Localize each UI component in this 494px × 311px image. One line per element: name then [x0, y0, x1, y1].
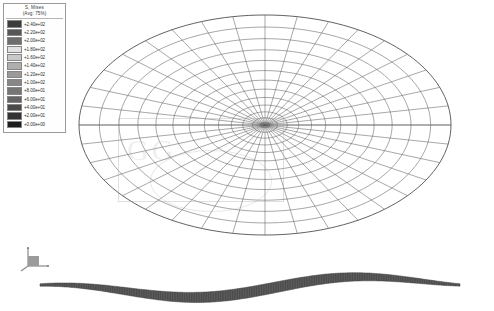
legend-level-row: +4.00e+01 — [7, 103, 63, 111]
legend-color-swatch — [7, 71, 22, 78]
legend-level-row: +0.00e+00 — [7, 120, 63, 128]
fea-contour-plot-root: GG S, Mises (Avg: 75%) +2.40e+02+2.20e+0… — [0, 0, 494, 311]
legend-header: S, Mises (Avg: 75%) — [4, 4, 65, 17]
legend-divider — [6, 18, 63, 19]
legend-color-swatch — [7, 46, 22, 53]
legend-color-swatch — [7, 20, 22, 27]
legend-level-row: +6.00e+01 — [7, 95, 63, 103]
legend-level-value: +2.00e+02 — [24, 38, 45, 43]
legend-level-row: +2.00e+01 — [7, 112, 63, 120]
legend-level-value: +6.00e+01 — [24, 97, 45, 102]
legend-level-value: +2.00e+01 — [24, 113, 45, 118]
legend-level-value: +2.20e+02 — [24, 30, 45, 35]
legend-level-value: +1.00e+02 — [24, 80, 45, 85]
legend-color-swatch — [7, 121, 22, 128]
legend-color-swatch — [7, 87, 22, 94]
legend-color-swatch — [7, 79, 22, 86]
legend-level-value: +1.40e+02 — [24, 63, 45, 68]
legend-color-swatch — [7, 37, 22, 44]
legend-color-swatch — [7, 112, 22, 119]
legend-level-row: +8.00e+01 — [7, 87, 63, 95]
axis-triad-icon — [18, 240, 58, 272]
legend-color-swatch — [7, 54, 22, 61]
legend-level-row: +1.00e+02 — [7, 78, 63, 86]
legend-level-value: +1.80e+02 — [24, 47, 45, 52]
legend-color-swatch — [7, 29, 22, 36]
legend-level-row: +1.60e+02 — [7, 53, 63, 61]
viewport[interactable]: GG — [0, 0, 494, 311]
legend-color-swatch — [7, 62, 22, 69]
legend-level-row: +2.00e+02 — [7, 37, 63, 45]
legend-level-value: +0.00e+00 — [24, 122, 45, 127]
legend-level-row: +1.80e+02 — [7, 45, 63, 53]
legend-level-row: +2.20e+02 — [7, 28, 63, 36]
legend-level-list: +2.40e+02+2.20e+02+2.00e+02+1.80e+02+1.6… — [4, 20, 65, 132]
legend-level-value: +2.40e+02 — [24, 22, 45, 27]
legend-level-value: +4.00e+01 — [24, 105, 45, 110]
legend-average-label: (Avg: 75%) — [4, 11, 65, 17]
legend-color-swatch — [7, 96, 22, 103]
legend-level-value: +1.60e+02 — [24, 55, 45, 60]
edge-view-deformed-profile — [0, 0, 494, 311]
legend-level-row: +2.40e+02 — [7, 20, 63, 28]
legend-level-row: +1.40e+02 — [7, 62, 63, 70]
legend-level-value: +1.20e+02 — [24, 72, 45, 77]
legend-level-value: +8.00e+01 — [24, 88, 45, 93]
legend-level-row: +1.20e+02 — [7, 70, 63, 78]
legend-color-swatch — [7, 104, 22, 111]
contour-legend[interactable]: S, Mises (Avg: 75%) +2.40e+02+2.20e+02+2… — [3, 3, 66, 133]
